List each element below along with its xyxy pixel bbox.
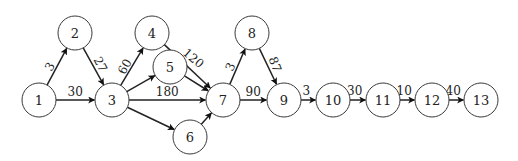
edge-3-to-6 — [127, 107, 174, 129]
node-label: 12 — [424, 93, 441, 108]
node-2: 2 — [58, 16, 92, 50]
node-1: 1 — [22, 83, 56, 117]
edge-label-2-3: 27 — [91, 54, 111, 74]
edge-label-1-3: 30 — [68, 85, 83, 99]
node-label: 10 — [325, 93, 342, 108]
network-diagram: 3302760180120390873301040 12345678910111… — [0, 0, 518, 161]
edge-label-7-9: 90 — [246, 85, 261, 99]
edge-label-8-9: 87 — [266, 55, 284, 74]
node-label: 3 — [108, 93, 116, 108]
node-label: 4 — [148, 26, 156, 41]
node-6: 6 — [173, 120, 207, 154]
edge-label-9-10: 3 — [302, 84, 310, 98]
node-3: 3 — [95, 83, 129, 117]
node-label: 9 — [280, 93, 288, 108]
arrow-icon — [127, 107, 174, 129]
node-9: 9 — [267, 83, 301, 117]
node-5: 5 — [153, 50, 187, 84]
node-label: 6 — [186, 130, 194, 145]
edge-label-3-4: 60 — [115, 57, 135, 77]
edge-label-1-2: 3 — [42, 60, 58, 74]
node-4: 4 — [135, 16, 169, 50]
arrow-icon — [127, 76, 155, 92]
node-8: 8 — [235, 16, 269, 50]
edge-3-to-5 — [127, 76, 155, 92]
node-label: 11 — [375, 93, 392, 108]
node-label: 13 — [473, 93, 490, 108]
edge-label-7-8: 3 — [222, 60, 238, 73]
arrow-icon — [201, 113, 211, 124]
node-label: 8 — [248, 26, 256, 41]
edge-6-to-7 — [201, 113, 211, 124]
edge-label-3-7: 180 — [156, 85, 179, 99]
node-label: 2 — [71, 26, 79, 41]
node-label: 1 — [35, 93, 43, 108]
node-7: 7 — [206, 83, 240, 117]
node-13: 13 — [464, 83, 498, 117]
node-12: 12 — [415, 83, 449, 117]
node-label: 5 — [166, 60, 174, 75]
node-label: 7 — [219, 93, 227, 108]
node-10: 10 — [316, 83, 350, 117]
node-11: 11 — [366, 83, 400, 117]
